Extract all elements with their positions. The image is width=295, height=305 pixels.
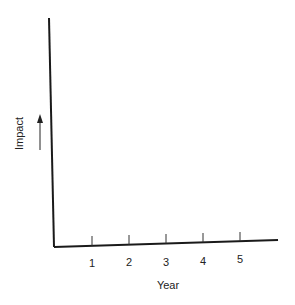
x-tick-label-4: 4 [200,256,206,267]
x-tick-label-5: 5 [237,254,243,265]
x-tick-label-2: 2 [126,257,132,268]
x-tick-label-3: 3 [163,257,169,268]
x-tick-label-1: 1 [89,258,95,269]
y-axis-line [49,18,54,247]
chart-canvas [0,0,295,305]
y-axis-label: Impact [14,117,25,150]
up-arrow-icon [37,114,43,150]
x-axis-label: Year [157,280,179,291]
